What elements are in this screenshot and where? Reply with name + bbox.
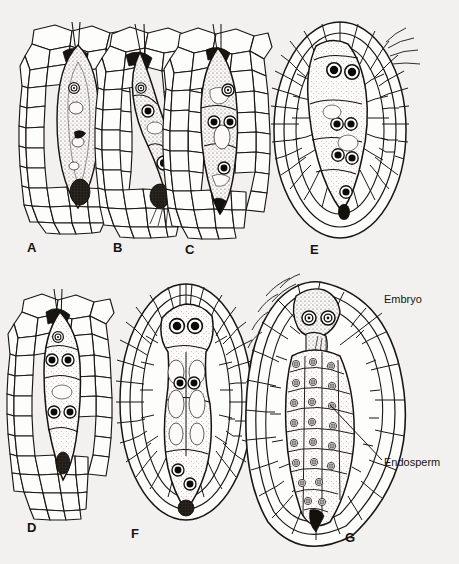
panel-a-antipodal-mass	[70, 179, 90, 205]
panel-e-nucleus	[327, 63, 341, 77]
panel-d-nucleus	[62, 354, 74, 366]
panel-letter-d: D	[27, 520, 36, 535]
panel-d-vacuole	[52, 385, 72, 399]
panel-c-nucleus	[224, 116, 236, 128]
embryo-development-figure: A	[0, 0, 459, 564]
panel-c-nucleus	[208, 116, 220, 128]
panel-g-nucleus	[321, 311, 335, 325]
panel-letter-b: B	[113, 240, 122, 255]
panel-b-nucleus	[142, 105, 154, 117]
embryo-label: Embryo	[384, 293, 422, 305]
panel-c-nucleus	[218, 162, 230, 174]
panel-f-nucleus	[188, 377, 200, 389]
panel-d-antipodal-mass	[56, 452, 70, 474]
panel-e-nucleus	[332, 149, 344, 161]
panel-f-endosperm-vacuole	[189, 390, 205, 418]
panel-c-vacuole	[214, 125, 230, 149]
panel-f-endosperm-vacuole	[169, 423, 183, 445]
panel-f-endosperm-vacuole	[190, 423, 204, 445]
panel-g-nucleus	[302, 311, 316, 325]
panel-letter-e: E	[310, 242, 319, 257]
panel-letter-f: F	[131, 526, 139, 541]
panel-a-vacuole	[72, 137, 84, 147]
panel-f-nucleus	[174, 377, 186, 389]
panel-e-nucleus	[345, 118, 357, 130]
panel-b-nucleus	[136, 83, 146, 93]
panel-f-nucleus	[188, 319, 203, 334]
panel-c-nucleus	[222, 84, 234, 96]
panel-d-nucleus	[53, 332, 64, 343]
panel-e-vacuole	[338, 135, 358, 151]
panel-e-nucleus	[346, 152, 358, 164]
panel-e-antipodal-mass	[338, 204, 350, 220]
panel-d-nucleus	[64, 406, 76, 418]
panel-e-nucleus	[340, 186, 352, 198]
panel-f-antipodal-mass	[178, 500, 194, 516]
endosperm-label: Endosperm	[384, 456, 440, 468]
panel-e-vacuole	[323, 105, 341, 119]
panel-e-nucleus	[331, 118, 343, 130]
panel-letter-a: A	[27, 240, 37, 255]
panel-f-nucleus	[172, 464, 184, 476]
panel-f-nucleus	[170, 319, 185, 334]
panel-f-nucleus	[184, 478, 196, 490]
panel-letter-c: C	[185, 242, 195, 257]
panel-d-nucleus	[46, 354, 58, 366]
panel-b-vacuole	[147, 122, 163, 134]
panel-e-nucleus	[345, 65, 359, 79]
panel-letter-g: G	[345, 530, 355, 545]
panel-a-vacuole	[69, 102, 83, 114]
panel-d-nucleus	[48, 406, 60, 418]
panel-c	[163, 24, 272, 239]
panel-a-vacuole	[69, 162, 79, 170]
panel-a-zygote-nucleus	[69, 83, 80, 94]
panel-f-endosperm-vacuole	[168, 390, 184, 418]
